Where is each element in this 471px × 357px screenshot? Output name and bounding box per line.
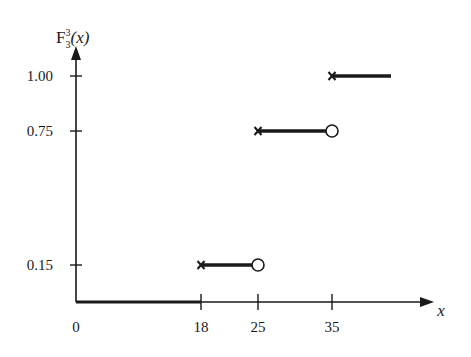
x-tick-label: 0	[72, 319, 80, 335]
labels: 0.150.751.000182535xF33(x)	[27, 27, 445, 335]
open-circle-marker-icon	[252, 259, 264, 271]
x-axis-title: x	[436, 301, 445, 320]
x-tick-label: 25	[251, 319, 266, 335]
y-axis-arrow-icon	[71, 46, 81, 60]
step-function-chart: 0.150.751.000182535xF33(x)	[0, 0, 471, 357]
y-axis-title-arg: (x)	[70, 28, 89, 47]
step-segments	[76, 72, 391, 302]
x-tick-label: 35	[325, 319, 340, 335]
x-axis-arrow-icon	[420, 297, 434, 307]
y-axis-title-main: F	[56, 28, 65, 47]
y-tick-label: 1.00	[27, 68, 53, 84]
x-tick-label: 18	[194, 319, 209, 335]
y-tick-label: 0.15	[27, 257, 53, 273]
y-axis-title: F33(x)	[56, 27, 90, 50]
y-tick-label: 0.75	[27, 123, 53, 139]
ticks	[70, 76, 332, 310]
open-circle-marker-icon	[326, 125, 338, 137]
